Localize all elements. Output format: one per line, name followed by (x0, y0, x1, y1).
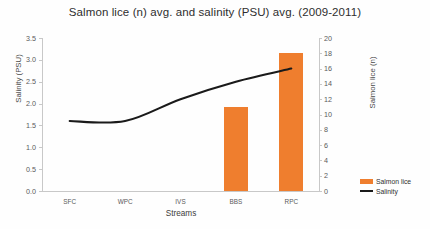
y-tick-secondary: 0 (324, 187, 346, 196)
legend-item-salmon-lice: Salmon lice (360, 176, 411, 186)
y-tick-primary: 3.5 (10, 34, 36, 43)
y-tick-secondary: 12 (324, 95, 346, 104)
y-tick-secondary: 16 (324, 64, 346, 73)
y-tickmark-secondary (319, 38, 322, 39)
y-tick-primary: 2.5 (10, 77, 36, 86)
line-series-salinity (42, 38, 319, 191)
legend-line-swatch-icon (360, 190, 373, 192)
y-tickmark-secondary (319, 160, 322, 161)
y-tick-secondary: 8 (324, 125, 346, 134)
y-tick-primary: 0.0 (10, 187, 36, 196)
legend-item-salinity: Salinity (360, 186, 411, 196)
legend-label-salmon-lice: Salmon lice (376, 178, 411, 185)
legend-bar-swatch-icon (360, 179, 373, 184)
y-tickmark-secondary (319, 84, 322, 85)
plot-area (42, 38, 319, 191)
y-tick-primary: 1.0 (10, 143, 36, 152)
y-tick-secondary: 20 (324, 34, 346, 43)
x-axis-line (42, 191, 320, 192)
y-tickmark-secondary (319, 130, 322, 131)
legend-label-salinity: Salinity (376, 188, 398, 195)
chart-title: Salmon lice (n) avg. and salinity (PSU) … (0, 6, 430, 18)
chart-legend: Salmon lice Salinity (360, 176, 411, 196)
y-tick-secondary: 18 (324, 49, 346, 58)
y-tick-primary: 2.0 (10, 99, 36, 108)
x-tick-label: IVS (158, 198, 204, 205)
y-tick-primary: 0.5 (10, 165, 36, 174)
y-tickmark-secondary (319, 191, 322, 192)
y-tickmark-secondary (319, 176, 322, 177)
y-tickmark-secondary (319, 99, 322, 100)
x-tick-label: SFC (47, 198, 93, 205)
x-tick-label: WPC (102, 198, 148, 205)
x-tick-label: BBS (213, 198, 259, 205)
y-tick-secondary: 6 (324, 141, 346, 150)
y-tick-secondary: 14 (324, 79, 346, 88)
y-tickmark-primary (39, 191, 42, 192)
y-axis-label-secondary: Salmon lice (n) (368, 41, 377, 125)
y-tickmark-secondary (319, 69, 322, 70)
y-tick-primary: 1.5 (10, 121, 36, 130)
y-tick-secondary: 10 (324, 110, 346, 119)
x-axis-label: Streams (42, 209, 320, 218)
y-tickmark-secondary (319, 115, 322, 116)
y-tick-secondary: 2 (324, 171, 346, 180)
y-tickmark-secondary (319, 145, 322, 146)
y-tick-secondary: 4 (324, 156, 346, 165)
chart-container: Salmon lice (n) avg. and salinity (PSU) … (0, 0, 430, 229)
y-tick-primary: 3.0 (10, 55, 36, 64)
x-tick-label: RPC (268, 198, 314, 205)
y-tickmark-secondary (319, 53, 322, 54)
